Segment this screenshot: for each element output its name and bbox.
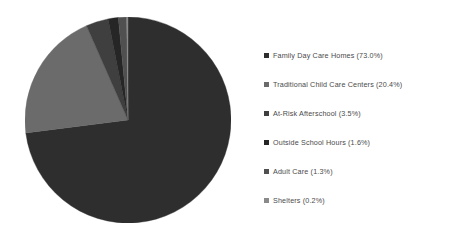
legend-swatch-icon (264, 111, 269, 116)
pie-chart-figure: Family Day Care Homes (73.0%) Traditiona… (0, 0, 456, 250)
legend-swatch-icon (264, 140, 269, 145)
legend-item[interactable]: Outside School Hours (1.6%) (264, 128, 454, 157)
legend-item-label: At-Risk Afterschool (3.5%) (273, 109, 361, 118)
legend-swatch-icon (264, 198, 269, 203)
legend-item[interactable]: At-Risk Afterschool (3.5%) (264, 99, 454, 128)
legend-swatch-icon (264, 82, 269, 87)
pie-slice-group (25, 17, 231, 223)
pie-chart-svg (25, 17, 231, 223)
pie-chart-plot-area (25, 17, 231, 223)
legend-item[interactable]: Adult Care (1.3%) (264, 157, 454, 186)
legend-item[interactable]: Traditional Child Care Centers (20.4%) (264, 70, 454, 99)
chart-legend: Family Day Care Homes (73.0%) Traditiona… (264, 41, 454, 215)
legend-item[interactable]: Shelters (0.2%) (264, 186, 454, 215)
legend-item[interactable]: Family Day Care Homes (73.0%) (264, 41, 454, 70)
legend-item-label: Adult Care (1.3%) (273, 167, 333, 176)
legend-swatch-icon (264, 169, 269, 174)
legend-item-label: Family Day Care Homes (73.0%) (273, 51, 383, 60)
legend-item-label: Shelters (0.2%) (273, 196, 325, 205)
legend-item-label: Outside School Hours (1.6%) (273, 138, 370, 147)
legend-item-label: Traditional Child Care Centers (20.4%) (273, 80, 402, 89)
legend-swatch-icon (264, 53, 269, 58)
